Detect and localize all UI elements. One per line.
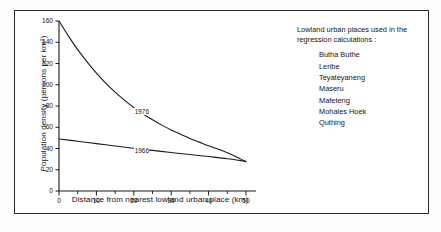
note-place-item: Butha Buthe	[319, 49, 423, 60]
y-tick-label: 140	[15, 38, 53, 45]
figure-canvas: Population density (persons per km²) Dis…	[0, 0, 441, 232]
y-tick-label: 20	[15, 166, 53, 173]
curve-label-1966: 1966	[134, 147, 149, 154]
note-place-item: Mohales Hoek	[319, 106, 423, 117]
note-place-list: Butha ButheLeribeTeyateyanengMaseruMafet…	[297, 49, 423, 128]
note-heading: Lowland urban places used in the regress…	[297, 25, 423, 45]
chart-plot-svg	[15, 11, 305, 215]
y-tick-label: 160	[15, 17, 53, 24]
plot-area: Population density (persons per km²) Dis…	[15, 11, 305, 215]
y-tick-label: 100	[15, 81, 53, 88]
y-tick-label: 120	[15, 60, 53, 67]
y-tick-label: 0	[15, 187, 53, 194]
curve-label-1976: 1976	[134, 108, 149, 115]
x-tick-label: 50	[232, 197, 260, 204]
y-tick-label: 60	[15, 123, 53, 130]
note-place-item: Teyateyaneng	[319, 72, 423, 83]
series-curve-1966	[59, 139, 246, 161]
note-place-item: Leribe	[319, 61, 423, 72]
x-tick-label: 20	[120, 197, 148, 204]
note-place-item: Mafeteng	[319, 95, 423, 106]
y-tick-label: 80	[15, 102, 53, 109]
note-place-item: Maseru	[319, 83, 423, 94]
x-tick-label: 0	[45, 197, 73, 204]
note-block: Lowland urban places used in the regress…	[297, 25, 423, 128]
x-tick-label: 40	[195, 197, 223, 204]
series-curve-1976	[59, 21, 246, 162]
note-place-item: Quthing	[319, 117, 423, 128]
x-tick-label: 10	[82, 197, 110, 204]
figure-frame: Population density (persons per km²) Dis…	[14, 10, 429, 214]
y-tick-label: 40	[15, 145, 53, 152]
x-tick-label: 30	[157, 197, 185, 204]
